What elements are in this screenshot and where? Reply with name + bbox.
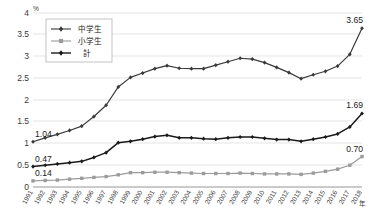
y-tick-label: 1.5 [17, 116, 29, 126]
y-tick-label: 3 [24, 51, 29, 61]
x-axis-unit-label: 年 [359, 199, 366, 208]
data-point-marker [324, 170, 327, 173]
data-label-end: 0.70 [346, 144, 363, 154]
data-point-marker [348, 164, 351, 167]
data-label-end: 1.69 [346, 100, 363, 110]
y-axis-unit-label: % [33, 5, 39, 12]
data-point-marker [129, 171, 132, 174]
data-point-marker [165, 171, 168, 174]
data-point-marker [68, 177, 71, 180]
legend: 中学生 小学生 計 [46, 19, 112, 62]
data-point-marker [336, 167, 339, 170]
data-point-marker [56, 178, 59, 181]
square-marker-icon [59, 39, 63, 43]
data-point-marker [287, 172, 290, 175]
y-tick-label: 2 [24, 95, 29, 105]
y-tick-label: 4 [24, 8, 29, 18]
data-point-marker [153, 171, 156, 174]
y-tick-label: 2.5 [17, 73, 29, 83]
data-label-start: 0.14 [35, 168, 52, 178]
data-point-marker [214, 172, 217, 175]
data-point-marker [238, 171, 241, 174]
chart-canvas: 4 3.5 3 2.5 2 1.5 1 0.5 0 % 年 1991199219… [0, 0, 371, 222]
data-point-marker [275, 172, 278, 175]
data-point-marker [80, 177, 83, 180]
data-point-marker [299, 173, 302, 176]
line-chart: 4 3.5 3 2.5 2 1.5 1 0.5 0 % 年 1991199219… [0, 0, 371, 222]
data-point-marker [190, 171, 193, 174]
legend-label: 中学生 [78, 24, 102, 34]
data-label-start: 0.47 [35, 154, 52, 164]
legend-label: 計 [83, 48, 91, 58]
data-point-marker [92, 176, 95, 179]
data-point-marker [251, 172, 254, 175]
y-tick-label: 1 [24, 138, 29, 148]
data-point-marker [117, 173, 120, 176]
data-point-marker [360, 155, 363, 158]
data-point-marker [104, 175, 107, 178]
data-point-marker [312, 171, 315, 174]
data-point-marker [178, 171, 181, 174]
y-tick-label: 0.5 [17, 160, 29, 170]
data-point-marker [31, 179, 34, 182]
data-point-marker [263, 172, 266, 175]
data-point-marker [43, 179, 46, 182]
y-tick-label: 3.5 [17, 29, 29, 39]
data-label-start: 1.04 [35, 129, 52, 139]
data-point-marker [141, 171, 144, 174]
data-label-end: 3.65 [346, 15, 363, 25]
data-point-marker [226, 172, 229, 175]
legend-label: 小学生 [78, 36, 102, 46]
data-point-marker [202, 172, 205, 175]
